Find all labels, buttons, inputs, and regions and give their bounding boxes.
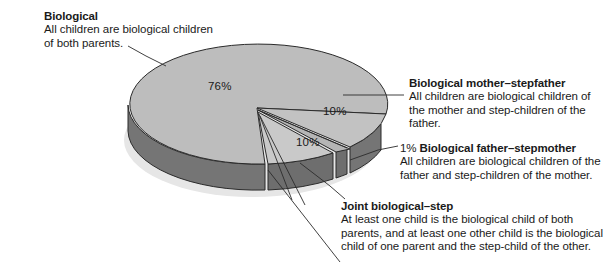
callout-biological-title: Biological bbox=[44, 9, 219, 23]
callout-mother-stepfather-body: All children are biological children of … bbox=[409, 90, 609, 131]
percent-label-biological: 76% bbox=[208, 80, 232, 92]
callout-joint-body: At least one child is the biological chi… bbox=[341, 213, 609, 254]
callout-mother-stepfather-title: Biological mother–stepfather bbox=[409, 76, 609, 90]
pie-chart-figure: 76% 10% 10% Biological All children are … bbox=[0, 0, 609, 262]
callout-biological: Biological All children are biological c… bbox=[44, 9, 219, 50]
callout-biological-body: All children are biological children of … bbox=[44, 23, 219, 50]
slice-side-father-stepmother bbox=[336, 148, 347, 178]
callout-mother-stepfather: Biological mother–stepfather All childre… bbox=[409, 76, 609, 131]
callout-father-stepmother: 1% Biological father–stepmother All chil… bbox=[400, 140, 609, 182]
percent-label-mother-stepfather: 10% bbox=[323, 105, 347, 117]
callout-father-stepmother-body: All children are biological children of … bbox=[400, 155, 609, 182]
callout-father-stepmother-percent: 1% bbox=[400, 142, 420, 154]
callout-joint-title: Joint biological–step bbox=[341, 199, 609, 213]
callout-father-stepmother-heading: 1% Biological father–stepmother bbox=[400, 140, 609, 155]
callout-father-stepmother-title: Biological father–stepmother bbox=[420, 142, 576, 154]
callout-joint-biological-step: Joint biological–step At least one child… bbox=[341, 199, 609, 254]
percent-label-joint: 10% bbox=[296, 136, 320, 148]
